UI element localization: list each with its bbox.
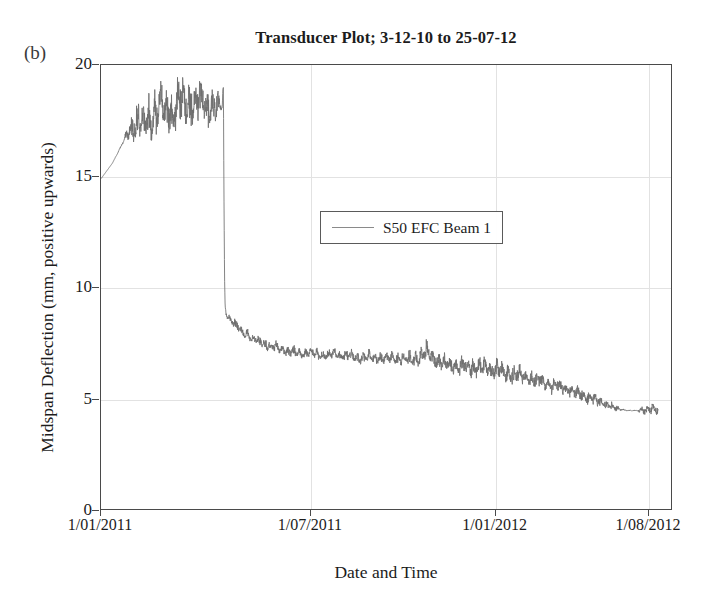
- y-axis-ticks: 05101520: [42, 64, 92, 510]
- panel-label: (b): [24, 42, 46, 64]
- series-line: [101, 77, 658, 414]
- x-tick-label: 1/08/2012: [573, 516, 713, 534]
- legend-line-swatch: [332, 227, 374, 228]
- chart-title: Transducer Plot; 3-12-10 to 25-07-12: [100, 28, 672, 48]
- plot-area: [100, 64, 672, 510]
- x-tick-label: 1/07/2011: [235, 516, 385, 534]
- y-tick-mark: [92, 64, 99, 65]
- y-tick-label: 20: [46, 54, 92, 74]
- y-tick-mark: [92, 510, 99, 511]
- x-tick-label: 1/01/2011: [25, 516, 175, 534]
- x-tick-mark: [310, 510, 311, 516]
- x-tick-label: 1/01/2012: [420, 516, 570, 534]
- legend: S50 EFC Beam 1: [320, 211, 503, 244]
- x-tick-mark: [648, 510, 649, 516]
- y-tick-label: 10: [46, 277, 92, 297]
- x-axis-title: Date and Time: [100, 562, 672, 583]
- data-series-s50-efc-beam-1: [101, 65, 672, 510]
- transducer-plot-figure: (b) Transducer Plot; 3-12-10 to 25-07-12…: [0, 0, 713, 607]
- y-tick-label: 15: [46, 166, 92, 186]
- y-tick-mark: [92, 399, 99, 400]
- x-tick-mark: [100, 510, 101, 516]
- legend-label: S50 EFC Beam 1: [383, 219, 491, 237]
- y-tick-label: 5: [46, 389, 92, 409]
- y-tick-mark: [92, 287, 99, 288]
- x-axis-ticks: 1/01/20111/07/20111/01/20121/08/2012: [0, 516, 713, 542]
- x-tick-mark: [495, 510, 496, 516]
- y-tick-mark: [92, 176, 99, 177]
